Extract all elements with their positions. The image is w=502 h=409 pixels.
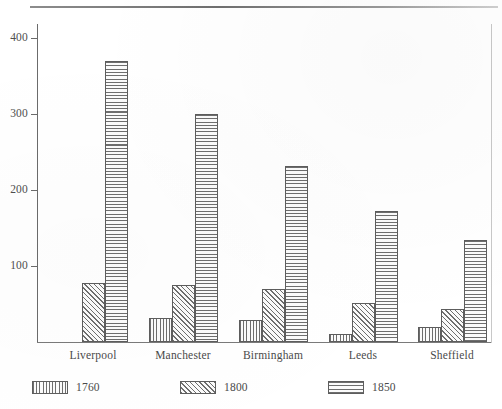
legend-label-1850: 1850 bbox=[372, 381, 396, 393]
bar-manchester-1800 bbox=[172, 285, 195, 342]
legend-swatch-1850 bbox=[328, 381, 364, 394]
bar-chart: 100200300400 LiverpoolManchesterBirmingh… bbox=[0, 0, 502, 409]
legend-item-1800: 1800 bbox=[180, 378, 248, 396]
bar-liverpool-1850 bbox=[105, 61, 128, 342]
y-axis-tick-label-text: 200 bbox=[0, 184, 28, 196]
legend-item-1850: 1850 bbox=[328, 378, 396, 396]
legend-label-1800: 1800 bbox=[224, 381, 248, 393]
x-axis-label-sheffield: Sheffield bbox=[402, 349, 502, 362]
y-axis-tick bbox=[31, 114, 38, 115]
y-axis-tick-label-text: 400 bbox=[0, 32, 28, 44]
legend-item-1760: 1760 bbox=[32, 378, 100, 396]
x-axis-label-birmingham: Birmingham bbox=[223, 349, 323, 362]
x-axis-line bbox=[37, 342, 492, 343]
bar-leeds-1800 bbox=[352, 303, 375, 342]
bar-sheffield-1760 bbox=[418, 327, 441, 342]
legend-swatch-1800 bbox=[180, 381, 216, 394]
y-axis-tick bbox=[31, 190, 38, 191]
y-axis-line bbox=[37, 24, 38, 343]
bar-manchester-1760 bbox=[149, 318, 172, 342]
bar-sheffield-1850 bbox=[464, 240, 487, 342]
bar-sheffield-1800 bbox=[441, 309, 464, 342]
bar-birmingham-1800 bbox=[262, 289, 285, 342]
y-axis-tick-label-text: 100 bbox=[0, 260, 28, 272]
bar-birmingham-1850 bbox=[285, 166, 308, 342]
bar-leeds-1850 bbox=[375, 211, 398, 342]
plot-right-edge bbox=[491, 24, 492, 343]
bar-birmingham-1760 bbox=[239, 320, 262, 342]
y-axis-tick bbox=[31, 266, 38, 267]
y-axis-tick-label-text: 300 bbox=[0, 108, 28, 120]
legend-swatch-1760 bbox=[32, 381, 68, 394]
x-axis-label-manchester: Manchester bbox=[133, 349, 233, 362]
bar-leeds-1760 bbox=[329, 334, 352, 342]
legend-label-1760: 1760 bbox=[76, 381, 100, 393]
y-axis-tick bbox=[31, 38, 38, 39]
bar-liverpool-1800 bbox=[82, 283, 105, 342]
y-axis-tick-label: 400 bbox=[0, 32, 28, 44]
y-axis-tick-label: 300 bbox=[0, 108, 28, 120]
bar-manchester-1850 bbox=[195, 114, 218, 342]
y-axis-tick-label: 100 bbox=[0, 260, 28, 272]
y-axis-tick-label: 200 bbox=[0, 184, 28, 196]
chart-legend: 176018001850 bbox=[32, 378, 472, 398]
x-axis-label-leeds: Leeds bbox=[313, 349, 413, 362]
x-axis-label-liverpool: Liverpool bbox=[43, 349, 143, 362]
